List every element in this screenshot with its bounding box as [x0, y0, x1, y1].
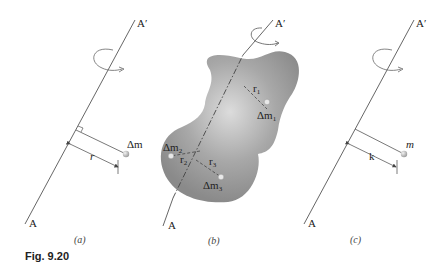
mass-label: m	[406, 138, 414, 150]
panel-c: k m A′ A (c)	[304, 17, 426, 246]
mass-label: Δm	[127, 138, 143, 150]
axis-line	[25, 20, 135, 224]
mass-point-2	[168, 153, 174, 159]
figure-canvas: r Δm A′ A (a) r1 Δm1 Δm2 r2 r3 Δm3 A′	[0, 0, 445, 271]
rotation-arrow-icon	[251, 28, 279, 46]
distance-label: k	[369, 150, 375, 162]
axis-top-label: A′	[416, 17, 426, 29]
panel-label-a: (a)	[74, 234, 86, 246]
panel-a: r Δm A′ A (a)	[25, 17, 147, 246]
axis-line-top	[243, 20, 273, 55]
panel-b: r1 Δm1 Δm2 r2 r3 Δm3 A′ A (b)	[161, 17, 299, 247]
axis-bottom-label: A	[29, 217, 37, 229]
panel-label-c: (c)	[350, 234, 362, 246]
mass-point-1	[264, 99, 270, 105]
figure-caption: Fig. 9.20	[25, 250, 69, 262]
distance-label: r	[90, 150, 95, 162]
mass-point	[401, 151, 407, 157]
panel-label-b: (b)	[208, 235, 220, 247]
axis-bottom-label: A	[168, 219, 176, 231]
axis-top-label: A′	[275, 17, 285, 29]
mass-point	[123, 151, 129, 157]
axis-top-label: A′	[137, 17, 147, 29]
mass-point-3	[218, 174, 224, 180]
axis-bottom-label: A	[308, 217, 316, 229]
axis-line	[304, 20, 414, 224]
